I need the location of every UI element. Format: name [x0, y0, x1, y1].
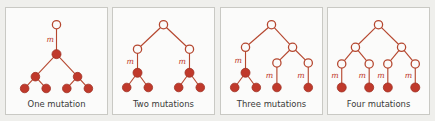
panel-caption: One mutation: [28, 99, 86, 109]
panel-one-mutation: m One mutation: [5, 7, 108, 115]
panel-four-mutations: m m m m Four mutations: [327, 7, 430, 115]
node-filled-leaf: [20, 84, 29, 93]
node-open-internal: [351, 43, 359, 51]
node-open-internal: [241, 43, 249, 51]
mutation-label-m: m: [297, 70, 304, 79]
node-filled-mutant-ancestor: [133, 68, 142, 77]
node-open-internal: [272, 58, 280, 66]
node-open-internal: [304, 58, 312, 66]
node-filled-leaf: [337, 82, 346, 91]
node-open-internal: [365, 59, 373, 67]
node-filled-leaf: [383, 82, 392, 91]
node-open-internal: [384, 59, 392, 67]
mutation-label-m: m: [377, 70, 384, 79]
mutation-label-m: m: [331, 70, 338, 79]
panel-caption: Two mutations: [132, 99, 194, 109]
mutation-label-m: m: [359, 70, 366, 79]
node-filled-leaf: [252, 83, 261, 92]
node-open-root: [374, 20, 382, 28]
mutation-label-m: m: [127, 56, 134, 65]
mutation-label-m: m: [265, 70, 272, 79]
node-open-internal: [411, 59, 419, 67]
mutation-tree-figure: m One mutation m: [0, 0, 435, 121]
node-filled-leaf: [411, 82, 420, 91]
node-open-internal: [338, 59, 346, 67]
panel-caption: Four mutations: [347, 99, 411, 109]
node-filled-leaf: [175, 83, 184, 92]
node-filled-mutant-ancestor: [185, 68, 194, 77]
mutation-label-m: m: [179, 56, 186, 65]
node-open-internal: [186, 45, 194, 53]
node-open-internal: [134, 45, 142, 53]
node-filled-mutant-ancestor: [52, 49, 61, 58]
node-open-root: [52, 20, 60, 28]
node-filled-leaf: [272, 83, 281, 92]
node-open-root: [160, 20, 168, 28]
node-filled-leaf: [230, 83, 239, 92]
panel-two-mutations: m m Two mutations: [112, 7, 215, 115]
node-open-internal: [397, 43, 405, 51]
node-filled-leaf: [42, 84, 51, 93]
panel-three-mutations: m m m Three mutations: [220, 7, 323, 115]
node-filled-leaf: [196, 83, 205, 92]
node-filled-leaf: [84, 84, 93, 93]
mutation-label-m: m: [46, 35, 53, 44]
node-filled-internal: [31, 72, 40, 81]
mutation-label-m: m: [234, 55, 241, 64]
node-filled-internal: [73, 72, 82, 81]
node-filled-leaf: [304, 83, 313, 92]
panel-caption: Three mutations: [235, 99, 305, 109]
node-open-root: [267, 20, 275, 28]
mutation-label-m: m: [405, 70, 412, 79]
node-filled-leaf: [62, 84, 71, 93]
node-open-internal: [288, 43, 296, 51]
node-filled-leaf: [365, 82, 374, 91]
node-filled-leaf: [123, 83, 132, 92]
node-filled-mutant-ancestor: [241, 68, 250, 77]
node-filled-leaf: [144, 83, 153, 92]
